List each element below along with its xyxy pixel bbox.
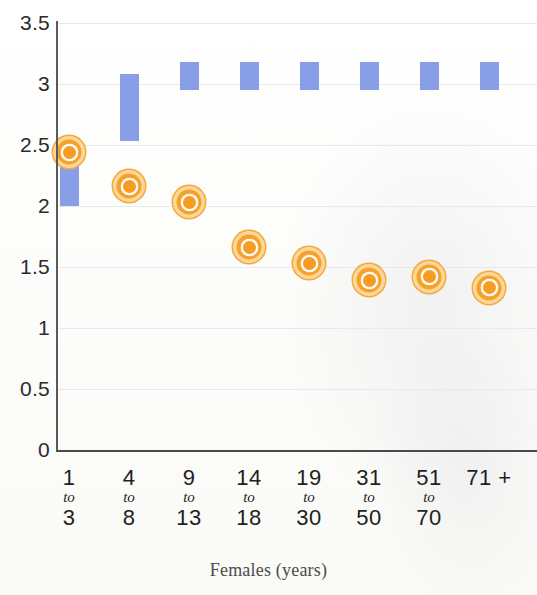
x-axis-title: Females (years) bbox=[0, 560, 537, 581]
gridline bbox=[57, 23, 537, 24]
y-tick-label: 2 bbox=[2, 195, 50, 216]
range-bar bbox=[240, 62, 259, 90]
y-tick-label: 3 bbox=[2, 73, 50, 94]
point-marker bbox=[117, 174, 142, 199]
x-axis-tick-labels: 1to34to89to1314to1819to3031to5051to7071 … bbox=[57, 466, 537, 558]
range-bar bbox=[120, 74, 139, 141]
range-bar bbox=[360, 62, 379, 90]
x-axis-line bbox=[56, 450, 537, 452]
point-marker bbox=[237, 235, 262, 260]
y-tick-label: 2.5 bbox=[2, 134, 50, 155]
gridline bbox=[57, 328, 537, 329]
gridline bbox=[57, 389, 537, 390]
x-tick-range-start: 71 + bbox=[454, 466, 524, 489]
y-tick-label: 0 bbox=[2, 439, 50, 460]
point-marker bbox=[177, 190, 202, 215]
range-bar bbox=[180, 62, 199, 90]
plot-area bbox=[57, 23, 537, 450]
point-marker bbox=[297, 251, 322, 276]
y-tick-label: 1.5 bbox=[2, 256, 50, 277]
range-bar bbox=[300, 62, 319, 90]
chart-canvas: 00.511.522.533.5 1to34to89to1314to1819to… bbox=[0, 0, 537, 595]
x-tick-range-connector: to bbox=[394, 489, 464, 506]
x-tick-label: 71 + bbox=[454, 466, 524, 489]
range-bar bbox=[480, 62, 499, 90]
x-tick-range-end: 70 bbox=[394, 506, 464, 529]
y-tick-label: 3.5 bbox=[2, 12, 50, 33]
range-bar bbox=[420, 62, 439, 90]
y-tick-label: 0.5 bbox=[2, 378, 50, 399]
point-marker bbox=[57, 140, 82, 165]
point-marker bbox=[357, 268, 382, 293]
point-marker bbox=[477, 275, 502, 300]
y-axis-line bbox=[56, 21, 58, 452]
y-tick-label: 1 bbox=[2, 317, 50, 338]
point-marker bbox=[417, 264, 442, 289]
gridline bbox=[57, 206, 537, 207]
gridline bbox=[57, 145, 537, 146]
